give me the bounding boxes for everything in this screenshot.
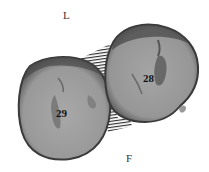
tooth-28-number: 28: [143, 72, 154, 84]
tooth-29-number: 29: [56, 107, 67, 119]
facial-label: F: [126, 152, 132, 164]
dental-diagram: [0, 0, 209, 172]
lingual-label: L: [63, 9, 70, 21]
